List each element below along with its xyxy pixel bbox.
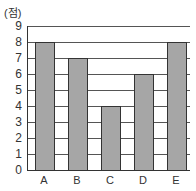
x-tick-e: E bbox=[164, 174, 188, 186]
x-tick-b: B bbox=[65, 174, 89, 186]
bar-e bbox=[168, 43, 187, 171]
bar-c bbox=[102, 107, 121, 171]
x-tick-c: C bbox=[98, 174, 122, 186]
bar-b bbox=[69, 59, 88, 171]
x-tick-d: D bbox=[131, 174, 155, 186]
x-tick-a: A bbox=[32, 174, 56, 186]
bar-a bbox=[36, 43, 55, 171]
bar-d bbox=[135, 75, 154, 171]
plot-area bbox=[0, 0, 196, 191]
